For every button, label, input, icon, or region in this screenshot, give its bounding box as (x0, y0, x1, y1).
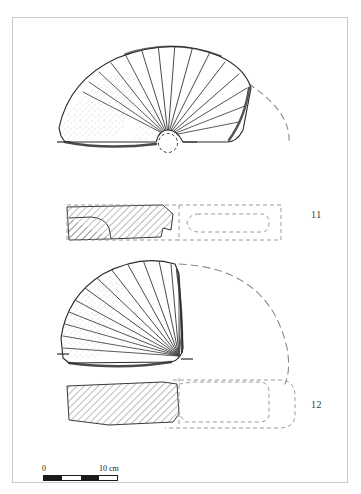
archaeological-drawing-svg (13, 18, 349, 484)
object-12-reconstruction-arc (179, 264, 289, 384)
object-12-section-profile (67, 382, 179, 425)
object-11-section-reconstruction-cavity (187, 214, 269, 232)
scale-bar-start-label: 0 (42, 464, 46, 473)
object-label-11: 11 (311, 209, 322, 220)
object-11-section-view (67, 205, 281, 240)
object-11-section-reconstruction-right (179, 205, 281, 240)
scale-bar-segments (43, 475, 118, 481)
object-11-reconstruction-arc (249, 84, 289, 142)
scale-bar-segment (81, 476, 99, 480)
object-12-section-reconstruction-inner (179, 382, 269, 422)
object-label-12: 12 (311, 399, 322, 410)
scale-bar-segment (44, 476, 62, 480)
object-11-lower-rim-edge (65, 142, 156, 147)
object-11-perforation (159, 134, 178, 153)
object-11-plan-view (57, 43, 289, 153)
object-12-section-reconstruction-outer (165, 380, 295, 428)
scale-bar: 0 10 cm (43, 466, 143, 490)
plate-frame: 11 12 0 10 cm (12, 17, 348, 483)
scale-bar-segment (99, 476, 117, 480)
object-12-section-view (67, 378, 295, 428)
scale-bar-end-label: 10 cm (99, 464, 119, 473)
scale-bar-segment (62, 476, 80, 480)
object-12-plan-view (57, 260, 289, 384)
plate-drawing-area: 11 12 0 10 cm (13, 18, 347, 482)
clipped-caption-above-plate (24, 0, 324, 8)
